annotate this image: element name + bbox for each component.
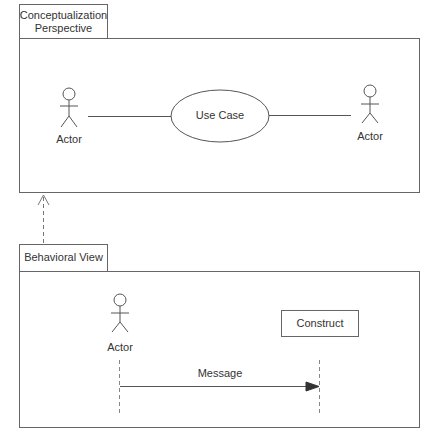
construct-label: Construct [285, 317, 355, 329]
conceptualization-tab-label: Conceptualization Perspective [19, 9, 108, 35]
left-actor-label: Actor [49, 133, 89, 145]
message-arrow [120, 382, 319, 391]
behavioral-package [20, 245, 420, 428]
right-actor-label: Actor [350, 130, 390, 142]
message-label: Message [180, 367, 260, 379]
sequence-actor-icon [111, 294, 129, 332]
behavioral-body [20, 272, 420, 428]
left-actor-icon [60, 88, 78, 127]
dependency-arrow [38, 195, 49, 244]
right-actor-icon [361, 85, 379, 123]
tab-label-line2: Perspective [19, 22, 108, 35]
behavioral-tab-label: Behavioral View [19, 251, 108, 264]
use-case-label: Use Case [190, 109, 250, 121]
sequence-actor-label: Actor [100, 341, 140, 353]
tab-label-line1: Conceptualization [19, 9, 108, 22]
